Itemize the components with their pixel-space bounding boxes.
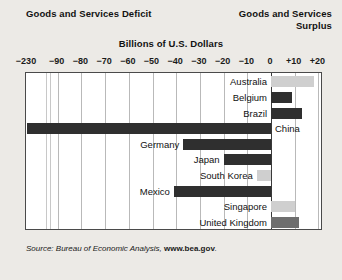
surplus-heading-line2: Surplus [296, 20, 332, 31]
x-tick-label: −10 [239, 56, 254, 66]
x-tick-label: −70 [96, 56, 111, 66]
x-tick-label: −30 [191, 56, 206, 66]
category-label: Germany [140, 140, 179, 150]
x-tick-label: 0 [267, 56, 272, 66]
bar [224, 154, 271, 165]
bar [27, 123, 271, 134]
bar-row [26, 92, 321, 103]
bar-row [26, 154, 321, 165]
category-label: United Kingdom [199, 218, 267, 228]
surplus-heading: Goods and Services Surplus [222, 8, 332, 31]
category-label: Japan [194, 155, 220, 165]
bar [257, 170, 271, 181]
x-tick-label: +10 [286, 56, 301, 66]
category-label: South Korea [200, 171, 253, 181]
bar [174, 186, 271, 197]
chart-figure: Goods and Services Deficit Goods and Ser… [0, 0, 342, 280]
x-tick-label: +20 [310, 56, 325, 66]
plot-area: AustraliaBelgiumBrazilChinaGermanyJapanS… [25, 72, 322, 230]
surplus-heading-line1: Goods and Services [239, 8, 332, 19]
category-label: China [275, 124, 300, 134]
x-tick-label: −40 [168, 56, 183, 66]
bar-row [26, 186, 321, 197]
bar-row [26, 201, 321, 212]
x-tick-label: −90 [49, 56, 64, 66]
bar [271, 201, 295, 212]
category-label: Mexico [140, 187, 170, 197]
category-label: Brazil [243, 109, 267, 119]
source-suffix: . [215, 244, 217, 253]
x-tick-label: −60 [120, 56, 135, 66]
x-tick-label: −80 [73, 56, 88, 66]
category-label: Singapore [224, 202, 267, 212]
category-label: Australia [230, 77, 267, 87]
bar-row [26, 108, 321, 119]
bar [271, 92, 292, 103]
source-prefix: Source: Bureau of Economic Analysis, [26, 244, 164, 253]
bar [271, 217, 299, 228]
x-axis-tick-labels: −230−90−80−70−60−50−40−30−20−100+10+20 [0, 56, 342, 72]
x-tick-label: −20 [215, 56, 230, 66]
x-tick-label: −50 [144, 56, 159, 66]
bar [271, 108, 302, 119]
bar [183, 139, 271, 150]
x-tick-label: −230 [16, 56, 36, 66]
source-note: Source: Bureau of Economic Analysis, www… [26, 244, 217, 253]
bar [271, 76, 314, 87]
bar-row [26, 76, 321, 87]
source-website: www.bea.gov [164, 244, 215, 253]
deficit-heading: Goods and Services Deficit [26, 8, 152, 19]
bar-row [26, 170, 321, 181]
bar-row [26, 217, 321, 228]
axis-units-title: Billions of U.S. Dollars [0, 38, 342, 49]
category-label: Belgium [233, 93, 267, 103]
